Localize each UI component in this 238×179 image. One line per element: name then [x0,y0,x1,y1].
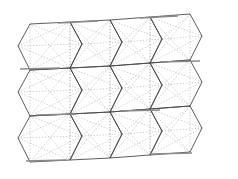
emphasis-band [152,153,192,154]
mesh-diagram-figure [0,0,238,179]
emphasis-band [120,110,160,111]
emphasis-band [36,114,76,115]
mesh-svg-canvas [0,0,238,179]
emphasis-band [26,160,66,161]
emphasis-band [20,68,60,69]
emphasis-band [160,61,200,62]
